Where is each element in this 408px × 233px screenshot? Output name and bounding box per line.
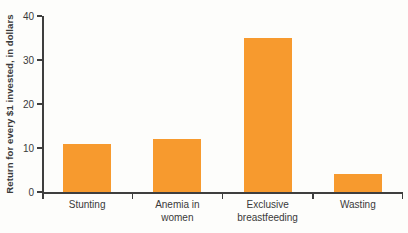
y-tick-label: 0 bbox=[28, 186, 34, 199]
x-tick-label: Wasting bbox=[340, 199, 376, 224]
bars-container bbox=[42, 16, 403, 192]
bar-slot bbox=[313, 16, 403, 192]
x-tick-mark bbox=[132, 194, 134, 199]
bar-exclusive-breastfeeding bbox=[244, 38, 292, 192]
bar-slot bbox=[223, 16, 313, 192]
x-tick-label: Exclusive breastfeeding bbox=[229, 199, 307, 224]
bar-chart: Return for every $1 invested, in dollars… bbox=[0, 0, 408, 233]
plot-area: 010203040 StuntingAnemia in womenExclusi… bbox=[42, 16, 403, 192]
x-tick-mark bbox=[42, 194, 44, 199]
y-tick-label: 40 bbox=[23, 10, 34, 23]
x-label-cell: Wasting bbox=[313, 199, 403, 224]
x-label-cell: Anemia in women bbox=[132, 199, 222, 224]
bar-stunting bbox=[63, 144, 111, 192]
y-tick-label: 30 bbox=[23, 54, 34, 67]
x-label-cell: Exclusive breastfeeding bbox=[223, 199, 313, 224]
y-tick-label: 20 bbox=[23, 98, 34, 111]
bar-wasting bbox=[334, 174, 382, 192]
x-axis-labels: StuntingAnemia in womenExclusive breastf… bbox=[42, 199, 403, 224]
x-label-cell: Stunting bbox=[42, 199, 132, 224]
y-axis-title: Return for every $1 invested, in dollars bbox=[4, 14, 15, 193]
x-tick-mark bbox=[222, 194, 224, 199]
bar-slot bbox=[132, 16, 222, 192]
y-tick-label: 10 bbox=[23, 142, 34, 155]
bar-anemia-in-women bbox=[153, 139, 201, 192]
x-tick-mark bbox=[312, 194, 314, 199]
x-tick-mark bbox=[402, 194, 404, 199]
bar-slot bbox=[42, 16, 132, 192]
x-tick-label: Stunting bbox=[69, 199, 106, 224]
x-tick-label: Anemia in women bbox=[138, 199, 216, 224]
